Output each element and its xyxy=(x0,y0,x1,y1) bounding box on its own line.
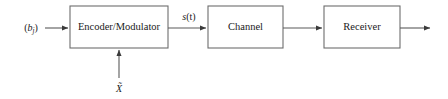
side-input-label: X̃ xyxy=(115,82,123,94)
block-diagram: (bj) Encoder/Modulator s(t) Channel Rece… xyxy=(0,0,448,99)
block-receiver-label: Receiver xyxy=(343,21,381,32)
input-signal-label: (bj) xyxy=(24,22,38,35)
signal-st-arg: (t) xyxy=(186,11,195,23)
input-close-paren: ) xyxy=(35,22,38,34)
block-channel-label: Channel xyxy=(228,21,263,32)
block-encoder-modulator-label: Encoder/Modulator xyxy=(78,21,161,32)
diagram-canvas: (bj) Encoder/Modulator s(t) Channel Rece… xyxy=(0,0,448,99)
signal-st-label: s(t) xyxy=(182,11,195,23)
side-input-symbol: X̃ xyxy=(115,82,123,94)
